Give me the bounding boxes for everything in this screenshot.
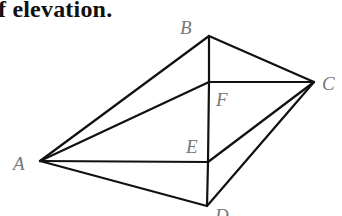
edge-BC (209, 36, 314, 82)
edge-FE (208, 82, 209, 162)
vertex-label-e: E (185, 136, 198, 157)
vertex-label-d: D (214, 205, 229, 216)
edge-AB (40, 36, 209, 161)
vertex-label-f: F (215, 89, 228, 110)
vertex-label-a: A (11, 153, 25, 174)
diagram-edges (40, 36, 314, 206)
diagram-labels: ABCDEF (11, 17, 335, 216)
edge-AE (40, 161, 208, 162)
edge-ED (207, 162, 208, 206)
vertex-label-c: C (322, 73, 335, 94)
geometry-diagram: ABCDEF (0, 0, 342, 216)
edge-AF (40, 82, 209, 161)
edge-AD (40, 161, 207, 206)
vertex-label-b: B (180, 17, 192, 38)
